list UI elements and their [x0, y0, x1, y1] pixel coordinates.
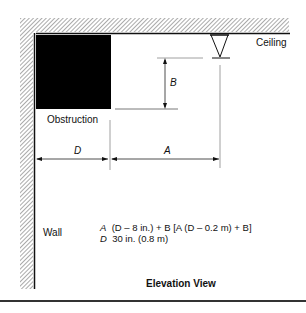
sprinkler-icon: [210, 35, 230, 58]
wall-hatch: [20, 32, 33, 289]
wall-label: Wall: [43, 228, 62, 238]
equation-line-1: A (D – 8 in.) + B [A (D – 0.2 m) + B]: [100, 222, 252, 233]
obstruction-label: Obstruction: [47, 115, 98, 125]
dim-b-label: B: [170, 78, 177, 88]
bottom-rule: [0, 300, 306, 302]
equation-2-variable: D: [100, 233, 107, 244]
diagram-title: Elevation View: [146, 278, 216, 289]
equation-line-2: D 30 in. (0.8 m): [100, 233, 168, 244]
dim-a-label: A: [164, 146, 171, 156]
obstruction-block: [36, 35, 111, 109]
ceiling-hatch: [20, 18, 289, 32]
dim-d-label: D: [74, 146, 81, 156]
ceiling-label: Ceiling: [256, 38, 287, 48]
equation-1-expression: (D – 8 in.) + B [A (D – 0.2 m) + B]: [112, 222, 252, 233]
equation-2-expression: 30 in. (0.8 m): [112, 233, 168, 244]
equation-1-variable: A: [100, 222, 106, 233]
